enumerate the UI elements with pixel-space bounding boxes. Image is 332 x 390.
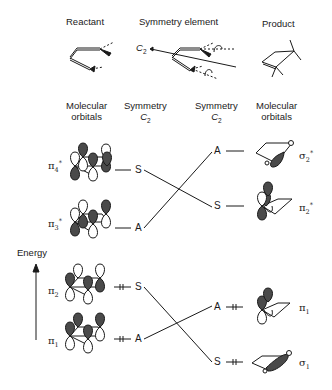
correlation-line-s-lower — [144, 287, 212, 362]
correlation-line-s-upper — [144, 170, 212, 207]
correlation-line-a-lower — [144, 306, 212, 339]
correlation-line-a-upper — [144, 152, 212, 228]
pi1-orbital-icon — [66, 313, 105, 353]
reactant-structure-icon — [70, 42, 114, 72]
correlation-diagram — [0, 0, 332, 390]
pi4-star-orbital-icon — [71, 143, 112, 181]
sigma2-star-orbital-icon — [256, 141, 294, 168]
product-structure-icon — [262, 40, 301, 77]
pi1-product-orbital-icon — [258, 288, 291, 324]
pi2-star-orbital-icon — [258, 182, 293, 220]
sigma1-orbital-icon — [252, 351, 292, 374]
pi3-star-orbital-icon — [71, 200, 111, 238]
symmetry-element-structure-icon — [150, 43, 236, 79]
energy-arrow-icon — [33, 264, 39, 340]
pi2-orbital-icon — [66, 264, 105, 304]
